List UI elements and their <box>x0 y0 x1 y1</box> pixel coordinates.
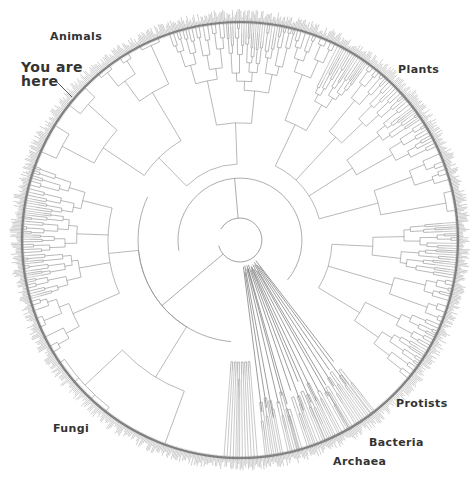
label-you-are-here-line1: You are <box>21 60 83 74</box>
label-you-are-here: You are here <box>21 60 83 88</box>
label-bacteria: Bacteria <box>369 436 424 449</box>
label-fungi: Fungi <box>53 422 89 435</box>
label-animals: Animals <box>50 30 102 43</box>
label-archaea: Archaea <box>333 455 386 468</box>
label-plants: Plants <box>398 63 439 76</box>
label-protists: Protists <box>396 397 448 410</box>
label-you-are-here-line2: here <box>21 74 83 88</box>
